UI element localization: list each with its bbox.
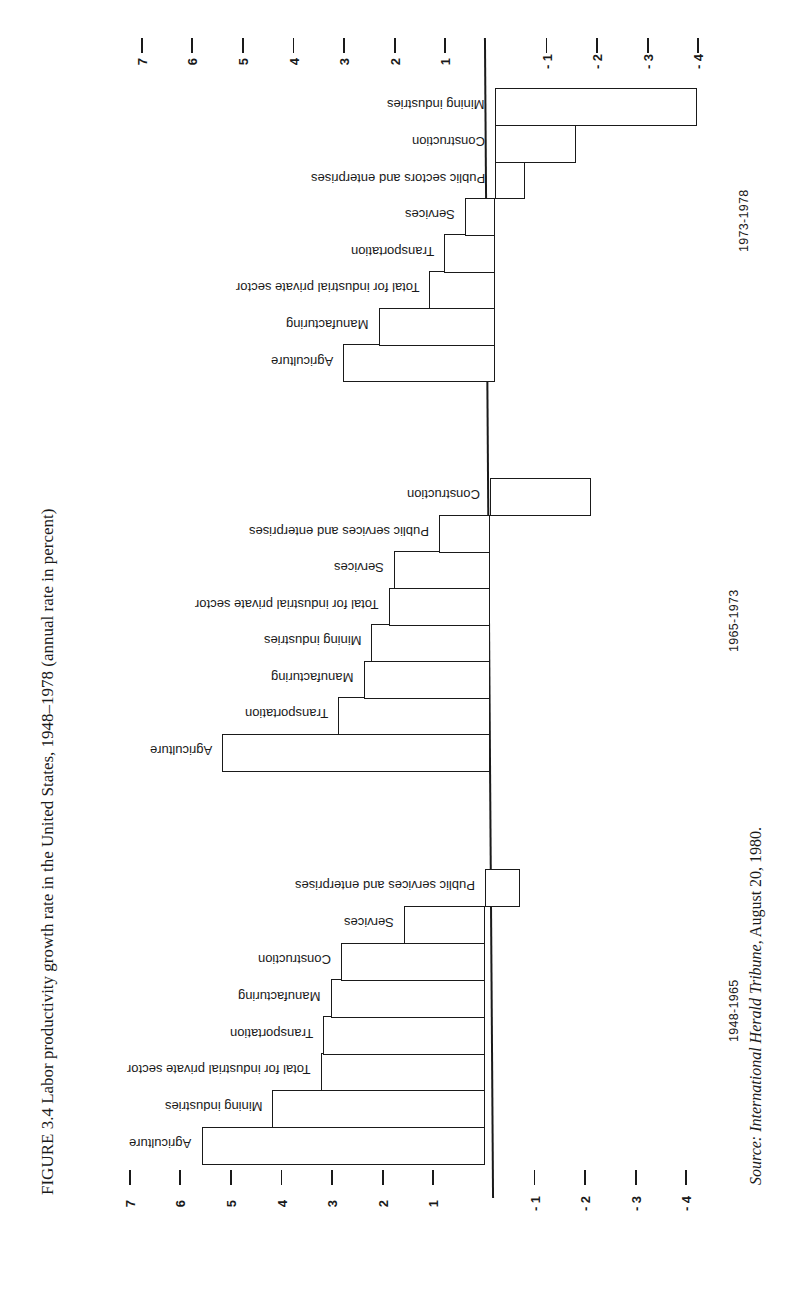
bar-label: Manufacturing <box>286 317 368 332</box>
bar <box>485 869 520 907</box>
axis-tick-bottom <box>230 1170 232 1185</box>
bar <box>371 624 490 662</box>
bar-label: Construction <box>407 487 480 502</box>
axis-tick-label-bottom: 5 <box>224 1194 239 1214</box>
axis-tick-bottom <box>382 1170 384 1185</box>
bar-label: Total for industrial private sector <box>127 1062 311 1077</box>
bar <box>341 943 485 981</box>
bar <box>404 906 485 944</box>
bar-label: Total for industrial private sector <box>195 597 379 612</box>
bar-label: Manufacturing <box>271 670 353 685</box>
bar-label: Transportation <box>245 706 328 721</box>
axis-tick-label-top: - 2 <box>590 52 605 72</box>
axis-tick-bottom <box>179 1170 181 1185</box>
bar <box>323 1016 485 1054</box>
bar <box>465 198 495 236</box>
axis-tick-bottom <box>432 1170 434 1185</box>
bar <box>439 515 490 553</box>
bar-label: Services <box>334 560 384 575</box>
bar-label: Public services and enterprises <box>295 878 475 893</box>
axis-tick-bottom <box>129 1170 131 1185</box>
bar-label: Transportation <box>351 244 434 259</box>
bar-label: Agriculture <box>150 743 212 758</box>
bar <box>338 697 490 735</box>
figure-source: Source: International Herald Tribune, Au… <box>747 827 765 1185</box>
axis-tick-label-bottom: 6 <box>173 1194 188 1214</box>
figure-title-text: FIGURE 3.4 Labor productivity growth rat… <box>38 509 57 1195</box>
period-label-1948-1965: 1948-1965 <box>727 980 741 1042</box>
axis-tick-label-top: 1 <box>438 52 453 72</box>
bar <box>495 88 697 126</box>
axis-tick-bottom <box>331 1170 333 1185</box>
axis-tick-label-bottom: 7 <box>122 1194 137 1214</box>
axis-tick-bottom <box>635 1170 637 1185</box>
bar-label: Services <box>344 915 394 930</box>
axis-tick-label-top: 5 <box>236 52 251 72</box>
axis-tick-label-top: - 3 <box>640 52 655 72</box>
bar <box>495 125 576 163</box>
bar-label: Total for industrial private sector <box>236 280 420 295</box>
bar-label: Public sectors and enterprises <box>311 171 485 186</box>
bar-label: Mining industries <box>387 97 485 112</box>
axis-tick-label-bottom: 3 <box>325 1194 340 1214</box>
axis-tick-label-top: 7 <box>134 52 149 72</box>
axis-tick-label-top: - 1 <box>539 52 554 72</box>
source-prefix: Source: <box>747 1132 764 1185</box>
axis-tick-label-bottom: 2 <box>375 1194 390 1214</box>
axis-tick-label-bottom: - 1 <box>527 1194 542 1214</box>
period-label-1965-1973: 1965-1973 <box>727 590 741 652</box>
bar-label: Construction <box>258 952 331 967</box>
axis-tick-label-top: 2 <box>387 52 402 72</box>
axis-tick-label-bottom: 1 <box>426 1194 441 1214</box>
axis-tick-label-top: - 4 <box>691 52 706 72</box>
bar-label: Services <box>405 207 455 222</box>
source-suffix: , August 20, 1980. <box>747 827 764 944</box>
axis-tick-label-top: 4 <box>286 52 301 72</box>
axis-tick-bottom <box>281 1170 283 1185</box>
bar-label: Mining industries <box>264 633 362 648</box>
axis-tick-label-top: 3 <box>337 52 352 72</box>
bar <box>379 308 495 346</box>
bar-label: Transportation <box>230 1026 313 1041</box>
bar <box>272 1090 485 1128</box>
axis-tick-label-bottom: 4 <box>274 1194 289 1214</box>
axis-tick-label-bottom: - 2 <box>578 1194 593 1214</box>
bar <box>321 1053 485 1091</box>
bar <box>331 979 485 1017</box>
bar <box>429 271 495 309</box>
bar-label: Agriculture <box>271 354 333 369</box>
bar-label: Public services and enterprises <box>249 524 429 539</box>
bar <box>394 551 490 589</box>
period-label-1973-1978: 1973-1978 <box>737 190 751 252</box>
bar <box>389 588 490 626</box>
axis-tick-bottom <box>584 1170 586 1185</box>
bar-label: Agriculture <box>129 1136 191 1151</box>
source-publication: International Herald Tribune <box>747 944 764 1132</box>
bar-label: Manufacturing <box>238 989 320 1004</box>
bar <box>364 661 491 699</box>
axis-tick-label-bottom: - 4 <box>679 1194 694 1214</box>
bar <box>222 734 490 772</box>
axis-tick-bottom <box>685 1170 687 1185</box>
figure-title: FIGURE 3.4 Labor productivity growth rat… <box>38 509 58 1195</box>
axis-tick-label-top: 6 <box>185 52 200 72</box>
bar <box>490 478 591 516</box>
axis-tick-label-bottom: - 3 <box>628 1194 643 1214</box>
bar <box>495 161 525 199</box>
bar <box>343 344 495 382</box>
bar-label: Construction <box>412 134 485 149</box>
bar <box>202 1127 485 1165</box>
bar-label: Mining industries <box>165 1099 263 1114</box>
bar <box>444 234 495 272</box>
axis-tick-bottom <box>534 1170 536 1185</box>
